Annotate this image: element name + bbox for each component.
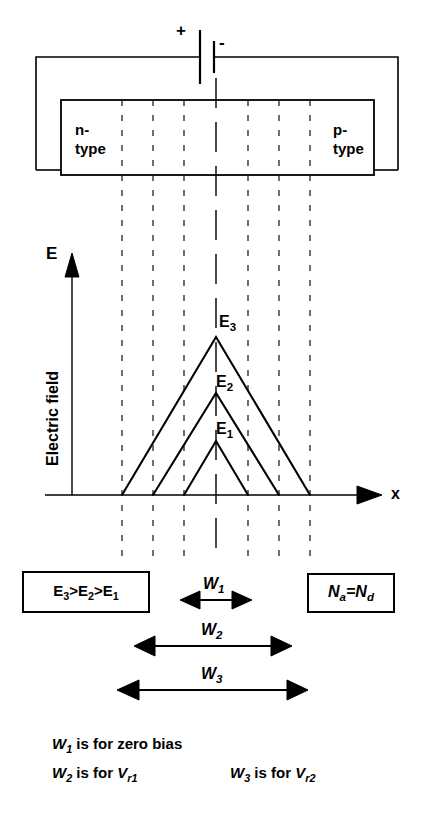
width-label-w2-sub: 2	[216, 629, 222, 641]
width-label-w3-base: W	[201, 665, 216, 682]
legend-2-v-sub: r1	[127, 772, 137, 784]
w1-arrowhead-left	[180, 591, 200, 609]
peak-label-e1: E1	[216, 421, 233, 441]
legend-3-v-sub: r2	[305, 772, 315, 784]
width-label-w3: W3	[201, 666, 223, 686]
ineq-e-b: E	[78, 582, 88, 599]
w2-arrowhead-right	[271, 636, 292, 656]
peak-label-e1-sub: 1	[227, 428, 233, 440]
ineq-e-c: E	[103, 582, 113, 599]
region-label-n-line2: type	[75, 141, 106, 156]
battery-plus-label: +	[176, 22, 186, 39]
battery-minus-label: -	[219, 34, 225, 51]
legend-line-3: W3 is for Vr2	[230, 764, 315, 784]
region-label-p-line1: p-	[333, 122, 347, 137]
legend-line-1: W1 is for zero bias	[52, 735, 182, 755]
w2-arrowhead-left	[134, 636, 155, 656]
legend-3-w-base: W	[230, 764, 244, 781]
y-axis-title-label: Electric field	[44, 371, 62, 466]
doping-box-text: Na=Nd	[328, 583, 374, 603]
peak-label-e3: E3	[219, 314, 236, 334]
width-label-w1-base: W	[203, 575, 218, 592]
inequality-box: E3>E2>E1	[22, 571, 150, 613]
width-label-w3-sub: 3	[216, 673, 222, 685]
legend-1-w-base: W	[52, 735, 66, 752]
x-axis-symbol-label: x	[391, 486, 400, 502]
region-label-n-line1: n-	[75, 122, 89, 137]
legend-2-v-base: V	[117, 764, 127, 781]
peak-label-e2-base: E	[216, 373, 227, 390]
w3-arrowhead-right	[287, 680, 308, 700]
legend-line-2: W2 is for Vr1	[52, 764, 137, 784]
width-label-w2: W2	[201, 622, 223, 642]
figure-vector-layer	[0, 0, 434, 817]
legend-3-text: is for	[250, 764, 295, 781]
battery-symbol	[200, 30, 214, 84]
w1-arrowhead-right	[232, 591, 252, 609]
ineq-gt-a: >	[69, 582, 78, 599]
peak-label-e3-base: E	[219, 313, 230, 330]
ineq-sub-c: 1	[113, 590, 119, 602]
peak-label-e2-sub: 2	[227, 381, 233, 393]
y-axis-symbol-label: E	[46, 245, 57, 262]
region-label-p-line2: type	[333, 141, 364, 156]
w3-arrowhead-left	[117, 680, 139, 700]
ineq-e-a: E	[53, 582, 63, 599]
peak-label-e1-base: E	[216, 420, 227, 437]
inequality-box-text: E3>E2>E1	[53, 582, 119, 602]
peak-label-e3-sub: 3	[230, 321, 236, 333]
ineq-gt-b: >	[94, 582, 103, 599]
plot-axes	[45, 253, 382, 504]
y-axis-arrowhead	[65, 253, 79, 277]
x-axis-arrowhead	[357, 486, 382, 504]
legend-3-v-base: V	[295, 764, 305, 781]
figure-root: + - n- type p- type E Electric field x E…	[0, 0, 434, 817]
legend-2-text: is for	[72, 764, 117, 781]
semiconductor-bar	[61, 100, 374, 175]
legend-1-text: is for zero bias	[72, 735, 182, 752]
width-label-w1: W1	[203, 576, 225, 596]
width-label-w1-sub: 1	[218, 583, 224, 595]
peak-label-e2: E2	[216, 374, 233, 394]
legend-2-w-base: W	[52, 764, 66, 781]
doping-box: Na=Nd	[307, 573, 395, 613]
width-label-w2-base: W	[201, 621, 216, 638]
